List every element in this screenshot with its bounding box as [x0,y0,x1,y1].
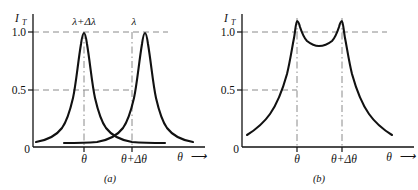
curve-sum-envelope [247,21,392,135]
panel-a-xtick-theta: θ [81,153,87,165]
panel-b-ytick-0: 0 [233,143,239,155]
panel-b-plot: I T 1.0 0.5 0 θ θ+Δθ θ ⟶ (b) [209,0,418,190]
panel-a-peak-label-lambda: λ [131,15,137,27]
curve-lambda-plus-delta-lambda [36,33,165,143]
panel-a-x-axis-arrow-icon: ⟶ [190,150,207,162]
panel-b-ytick-0-5: 0.5 [221,84,236,96]
panel-b-xtick-theta-plus-delta: θ+Δθ [331,153,357,165]
panel-a-caption: (a) [104,173,117,185]
curve-lambda [64,33,193,143]
panel-b-x-axis-label: θ [386,151,392,163]
panel-b-y-axis-label: I [223,12,229,24]
panel-a-plot: I T 1.0 0.5 0 θ θ+Δθ θ ⟶ λ+Δλ λ (a) [0,0,209,190]
panel-b-xtick-theta: θ [294,153,300,165]
panel-a-y-axis-label: I [14,12,20,24]
panel-b-caption: (b) [313,173,326,185]
panel-a-peak-label-lambda-plus-delta-lambda: λ+Δλ [71,15,96,27]
panel-a-xtick-theta-plus-delta: θ+Δθ [121,153,147,165]
panel-a-x-axis-label: θ [177,151,183,163]
panel-a-ytick-0-5: 0.5 [12,84,27,96]
panel-b-ytick-1-0: 1.0 [221,26,236,38]
panel-a-ytick-0: 0 [24,143,30,155]
panel-a-ytick-1-0: 1.0 [12,26,27,38]
panel-b: I T 1.0 0.5 0 θ θ+Δθ θ ⟶ (b) [209,0,418,190]
panel-b-x-axis-arrow-icon: ⟶ [399,150,416,162]
panel-a: I T 1.0 0.5 0 θ θ+Δθ θ ⟶ λ+Δλ λ (a) [0,0,209,190]
figure-root: I T 1.0 0.5 0 θ θ+Δθ θ ⟶ λ+Δλ λ (a) [0,0,418,190]
